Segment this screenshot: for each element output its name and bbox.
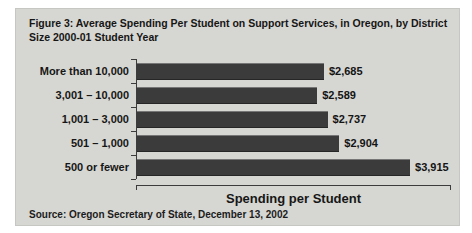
figure-canvas: Figure 3: Average Spending Per Student o…	[0, 0, 472, 233]
x-axis-label: Spending per Student	[136, 191, 451, 206]
chart-row: 500 or fewer$3,915	[39, 155, 451, 179]
bar	[136, 87, 317, 104]
bar	[136, 63, 324, 80]
value-label: $2,904	[344, 137, 378, 149]
y-axis-tick	[131, 155, 136, 156]
value-label: $2,685	[329, 65, 363, 77]
value-label: $3,915	[415, 161, 449, 173]
chart-row: 501 – 1,000$2,904	[39, 131, 451, 155]
y-axis-tick	[131, 83, 136, 84]
figure-box: Figure 3: Average Spending Per Student o…	[15, 8, 460, 226]
chart-rows: More than 10,000$2,6853,001 – 10,000$2,5…	[39, 59, 451, 179]
y-axis-tick	[131, 107, 136, 108]
y-axis-tick	[131, 179, 136, 180]
source-note: Source: Oregon Secretary of State, Decem…	[29, 209, 288, 220]
category-label: More than 10,000	[39, 65, 136, 77]
bar-area: $2,685	[136, 63, 451, 80]
category-label: 3,001 – 10,000	[39, 89, 136, 101]
chart-row: 3,001 – 10,000$2,589	[39, 83, 451, 107]
x-axis-tick-start	[136, 185, 137, 190]
value-label: $2,737	[333, 113, 367, 125]
y-axis-tick	[131, 59, 136, 60]
bar	[136, 135, 339, 152]
y-axis-line	[136, 59, 137, 179]
chart-title: Figure 3: Average Spending Per Student o…	[29, 16, 463, 44]
chart-row: 1,001 – 3,000$2,737	[39, 107, 451, 131]
category-label: 501 – 1,000	[39, 137, 136, 149]
bar-area: $2,904	[136, 135, 451, 152]
chart-row: More than 10,000$2,685	[39, 59, 451, 83]
bar	[136, 111, 328, 128]
x-axis-line	[136, 185, 451, 186]
bar-area: $3,915	[136, 159, 451, 176]
x-axis-tick-end	[450, 185, 451, 190]
category-label: 1,001 – 3,000	[39, 113, 136, 125]
bar-area: $2,737	[136, 111, 451, 128]
bar	[136, 159, 410, 176]
category-label: 500 or fewer	[39, 161, 136, 173]
bar-area: $2,589	[136, 87, 451, 104]
y-axis-tick	[131, 131, 136, 132]
value-label: $2,589	[322, 89, 356, 101]
